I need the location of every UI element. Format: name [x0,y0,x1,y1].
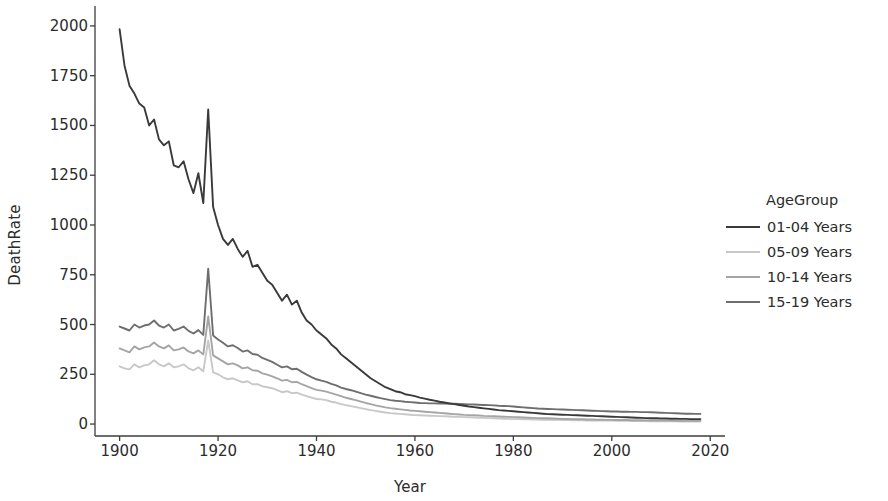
legend-color-swatch [726,276,760,278]
legend-title: AgeGroup [766,192,886,208]
legend-item-label: 15-19 Years [767,294,852,310]
series-line [120,269,701,414]
legend-item[interactable]: 01-04 Years [726,214,886,239]
legend-item-label: 01-04 Years [767,219,852,235]
legend-items: 01-04 Years05-09 Years10-14 Years15-19 Y… [726,214,886,314]
series-line [120,317,701,421]
series-line [120,340,701,421]
legend-item[interactable]: 15-19 Years [726,289,886,314]
legend-color-swatch [726,226,760,228]
chart-root: DeathRate 025050075010001250150017502000… [0,0,888,501]
legend-color-swatch [726,251,760,253]
legend-item-label: 05-09 Years [767,244,852,260]
series-line [120,29,701,419]
legend-item[interactable]: 10-14 Years [726,264,886,289]
legend-item-label: 10-14 Years [767,269,852,285]
legend-item[interactable]: 05-09 Years [726,239,886,264]
legend: AgeGroup 01-04 Years05-09 Years10-14 Yea… [726,192,886,314]
legend-color-swatch [726,301,760,303]
